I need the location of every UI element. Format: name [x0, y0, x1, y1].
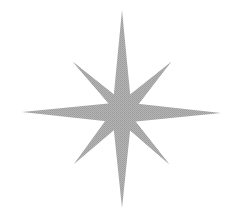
eight-pointed-star-icon [0, 0, 227, 210]
cardinal-rays [22, 10, 221, 208]
star-figure [0, 0, 227, 210]
